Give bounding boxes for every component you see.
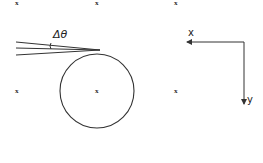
- marker-x: x: [15, 0, 19, 6]
- marker-x: x: [95, 0, 99, 6]
- marker-x: x: [174, 0, 178, 6]
- diagram-canvas: [0, 0, 263, 163]
- ray-lower: [16, 50, 100, 55]
- angle-arc: [50, 43, 51, 49]
- marker-x: x: [174, 88, 178, 94]
- marker-center: x: [95, 88, 99, 94]
- x-axis-label: x: [188, 28, 194, 38]
- marker-x: x: [15, 88, 19, 94]
- delta-theta-label: Δθ: [53, 29, 67, 40]
- y-axis-label: y: [247, 95, 253, 105]
